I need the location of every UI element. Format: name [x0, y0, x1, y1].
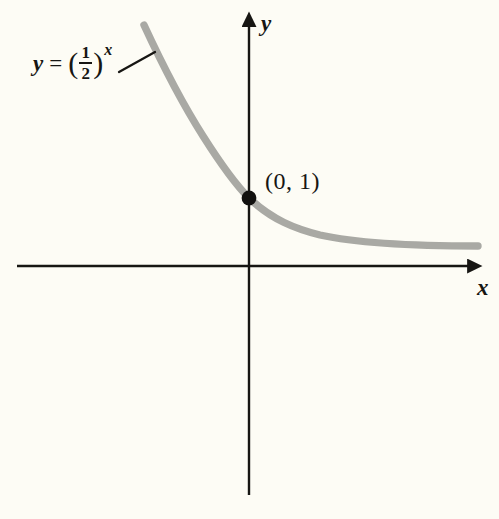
equation-open-paren: (: [68, 48, 78, 78]
equation-exponent: x: [104, 42, 112, 58]
equation-close-paren: ): [93, 48, 103, 78]
exponential-decay-figure: y x (0, 1) y = ( 1 2 ) x: [0, 0, 499, 519]
equation-operator: =: [49, 52, 62, 75]
y-intercept-point: [242, 191, 257, 206]
fraction-denominator: 2: [79, 64, 92, 82]
equation-fraction: 1 2: [79, 44, 92, 83]
equation-lhs: y: [33, 52, 43, 75]
x-axis-label: x: [477, 276, 489, 299]
axes-group: [17, 24, 470, 495]
y-intercept-label: (0, 1): [265, 169, 320, 193]
y-axis-label: y: [261, 12, 271, 35]
curve-equation-label: y = ( 1 2 ) x: [33, 44, 112, 83]
fraction-numerator: 1: [79, 44, 92, 62]
exponential-curve: [144, 25, 478, 246]
equation-leader-line: [119, 52, 155, 72]
